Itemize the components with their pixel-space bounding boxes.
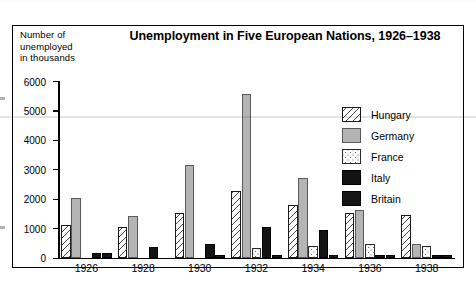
legend-label: Britain (371, 193, 401, 205)
bar-britain-1932 (272, 255, 282, 258)
bar-france-1932 (252, 248, 262, 258)
bar-hungary-1926 (61, 225, 71, 258)
bar-italy-1926 (92, 253, 102, 257)
legend-swatch-germany (342, 128, 361, 143)
legend-swatch-italy (342, 170, 361, 185)
bar-britain-1926 (102, 253, 112, 257)
legend-swatch-hungary (342, 107, 361, 122)
y-tick-label: 4000 (24, 135, 46, 146)
bar-hungary-1930 (175, 213, 185, 257)
legend-label: France (371, 151, 404, 163)
bar-germany-1934 (298, 178, 308, 257)
y-tick-label: 6000 (24, 76, 46, 87)
x-tick-label: 1926 (75, 262, 98, 274)
bar-britain-1938 (442, 255, 452, 257)
legend-item-germany: Germany (342, 125, 454, 146)
bar-italy-1932 (262, 227, 272, 258)
bar-britain-1930 (215, 255, 225, 257)
legend-item-italy: Italy (342, 167, 454, 188)
x-tick-label: 1934 (302, 262, 325, 274)
bar-france-1934 (308, 246, 318, 257)
y-tick-mark: 0 (53, 258, 58, 259)
legend-label: Germany (371, 130, 414, 142)
scan-artifact-edge (0, 226, 5, 229)
bar-hungary-1932 (231, 191, 241, 257)
bar-france-1936 (365, 244, 375, 258)
bar-hungary-1934 (288, 205, 298, 258)
y-axis-caption: Number of unemployed in thousands (20, 29, 75, 64)
bar-germany-1932 (242, 94, 252, 258)
scan-artifact-edge (0, 97, 5, 100)
legend-item-britain: Britain (342, 188, 454, 209)
x-tick-label: 1936 (358, 262, 381, 274)
bar-germany-1928 (128, 216, 138, 257)
chart-figure: Number of unemployed in thousands Unempl… (12, 25, 464, 268)
bar-group (228, 81, 285, 258)
y-tick-label: 3000 (24, 164, 46, 175)
x-tick-label: 1938 (415, 262, 438, 274)
bar-group (58, 81, 115, 258)
bar-italy-1930 (205, 244, 215, 258)
bar-hungary-1936 (345, 213, 355, 257)
legend-item-france: France (342, 146, 454, 167)
legend-label: Italy (371, 172, 390, 184)
bar-italy-1938 (432, 255, 442, 257)
legend-item-hungary: Hungary (342, 104, 454, 125)
bar-germany-1938 (412, 244, 422, 257)
bar-britain-1936 (386, 255, 396, 257)
bar-hungary-1938 (401, 215, 411, 257)
chart-legend: HungaryGermanyFranceItalyBritain (342, 104, 454, 209)
bar-italy-1928 (149, 247, 159, 258)
bar-germany-1936 (355, 210, 365, 257)
x-tick-label: 1932 (245, 262, 268, 274)
bar-britain-1934 (329, 255, 339, 257)
y-tick-label: 0 (40, 253, 46, 264)
bar-group (115, 81, 172, 258)
x-tick-label: 1928 (131, 262, 154, 274)
bar-italy-1936 (375, 255, 385, 257)
page-title: Unemployment in Five European Nations, 1… (109, 29, 461, 43)
x-axis-line (58, 258, 455, 260)
legend-swatch-britain (342, 191, 361, 206)
y-tick-label: 2000 (24, 194, 46, 205)
legend-swatch-france (342, 149, 361, 164)
bar-group (171, 81, 228, 258)
bar-group (285, 81, 342, 258)
bar-germany-1930 (185, 165, 195, 257)
bar-germany-1926 (71, 198, 81, 258)
bar-hungary-1928 (118, 227, 128, 258)
x-tick-label: 1930 (188, 262, 211, 274)
bar-france-1938 (422, 246, 432, 257)
y-tick-label: 1000 (24, 223, 46, 234)
legend-label: Hungary (371, 109, 411, 121)
y-tick-label: 5000 (24, 106, 46, 117)
bar-italy-1934 (319, 230, 329, 257)
